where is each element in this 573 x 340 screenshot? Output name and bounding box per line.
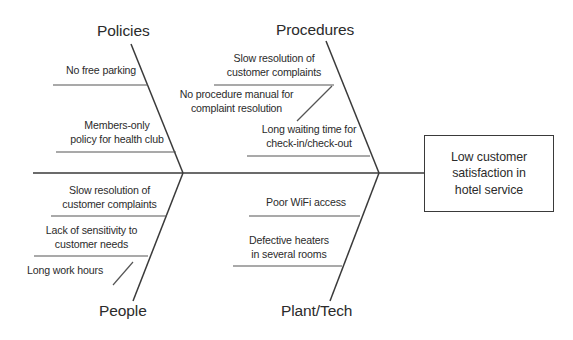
category-label-plant-tech: Plant/Tech [281, 302, 352, 321]
effect-line-2: satisfaction in [451, 165, 527, 181]
cause-people-1: Slow resolution of customer complaints [51, 184, 168, 211]
category-label-procedures: Procedures [276, 21, 354, 40]
cause-line: Lack of sensitivity to [34, 224, 149, 238]
category-label-people: People [99, 302, 147, 321]
cause-line: No free parking [52, 64, 150, 77]
cause-line: policy for health club [56, 133, 178, 147]
cause-line: Members-only [56, 119, 178, 133]
cause-plant-2: Defective heaters in several rooms [236, 234, 342, 261]
cause-procedures-3: Long waiting time for check-in/check-out [248, 123, 370, 150]
cause-line: Slow resolution of [51, 184, 168, 198]
cause-line: customer complaints [213, 66, 335, 80]
effect-text: Low customer satisfaction in hotel servi… [451, 149, 527, 198]
cause-line: No procedure manual for [174, 88, 299, 102]
cause-policies-2: Members-only policy for health club [56, 119, 178, 146]
cause-policies-1: No free parking [52, 64, 150, 77]
cause-procedures-2: No procedure manual for complaint resolu… [174, 88, 299, 115]
cause-line: check-in/check-out [248, 137, 370, 151]
cause-line: customer complaints [51, 198, 168, 212]
cause-people-2: Lack of sensitivity to customer needs [34, 224, 149, 251]
effect-line-3: hotel service [451, 182, 527, 198]
category-label-policies: Policies [97, 22, 150, 41]
cause-rule-people-3 [113, 262, 133, 285]
cause-line: Slow resolution of [213, 52, 335, 66]
cause-line: Long waiting time for [248, 123, 370, 137]
cause-plant-1: Poor WiFi access [253, 196, 359, 209]
cause-procedures-1: Slow resolution of customer complaints [213, 52, 335, 79]
effect-box: Low customer satisfaction in hotel servi… [424, 135, 554, 212]
cause-line: Poor WiFi access [253, 196, 359, 209]
cause-line: Defective heaters [236, 234, 342, 248]
cause-line: Long work hours [17, 264, 113, 277]
effect-line-1: Low customer [451, 149, 527, 165]
cause-line: customer needs [34, 238, 149, 252]
cause-line: complaint resolution [174, 102, 299, 116]
cause-rule-procedures-2 [297, 86, 332, 121]
cause-line: in several rooms [236, 248, 342, 262]
cause-people-3: Long work hours [17, 264, 113, 277]
